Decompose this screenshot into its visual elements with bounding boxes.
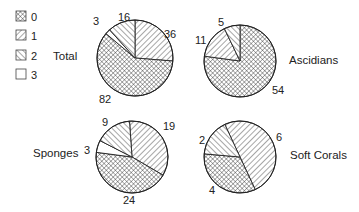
pie-soft-corals: [204, 121, 276, 193]
value-label: 4: [209, 184, 215, 196]
pie-title-total: Total: [53, 50, 77, 62]
pie-title-sponges: Sponges: [33, 147, 79, 159]
value-label: 19: [163, 120, 175, 132]
value-label: 3: [84, 144, 90, 156]
legend-label: 2: [31, 50, 37, 62]
pie-chart-panel: 0 1 2 3 Total 3 16 36 82 Ascidians 5 11 …: [0, 0, 359, 212]
value-label: 24: [123, 194, 135, 206]
value-label: 54: [272, 84, 284, 96]
pie-slice-category-1: [135, 20, 173, 61]
value-label: 2: [199, 134, 205, 146]
value-label: 82: [99, 93, 111, 105]
value-label: 9: [102, 116, 108, 128]
value-label: 3: [93, 15, 99, 27]
legend-item-0: 0: [16, 11, 37, 23]
value-label: 16: [118, 11, 130, 23]
hatch-ascending-swatch-icon: [16, 50, 26, 60]
value-label: 36: [164, 28, 176, 40]
value-label: 5: [218, 16, 224, 28]
pie-title-soft-corals: Soft Corals: [290, 149, 347, 161]
crosshatch-swatch-icon: [16, 11, 26, 21]
pie-title-ascidians: Ascidians: [289, 54, 338, 66]
legend: 0 1 2 3: [16, 11, 37, 81]
legend-label: 1: [31, 30, 37, 42]
pie-ascidians: [204, 25, 276, 97]
hatch-descending-swatch-icon: [16, 30, 26, 40]
legend-item-2: 2: [16, 50, 37, 62]
legend-item-1: 1: [16, 30, 37, 42]
empty-swatch-icon: [16, 69, 26, 79]
legend-label: 3: [31, 69, 37, 81]
pie-sponges: [96, 121, 168, 193]
legend-label: 0: [31, 11, 37, 23]
value-label: 6: [276, 131, 282, 143]
value-label: 11: [195, 34, 206, 46]
pie-total: [97, 20, 173, 96]
legend-item-3: 3: [16, 69, 37, 81]
